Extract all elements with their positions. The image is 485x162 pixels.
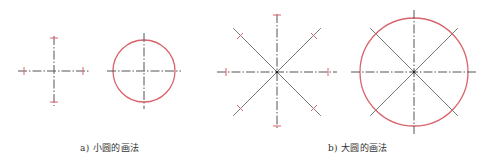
large-circle-step2-circle	[351, 10, 477, 134]
small-circle-step1-crosshair	[18, 36, 90, 106]
small-circle-step2-circle	[107, 33, 181, 109]
caption-small-circle-method: a) 小圆的画法	[80, 141, 139, 154]
radius-tick-mark	[311, 105, 317, 111]
radius-tick-mark	[237, 33, 243, 39]
center-point	[276, 71, 278, 73]
caption-large-circle-method: b) 大圆的画法	[328, 141, 388, 154]
radius-tick-mark	[237, 105, 243, 111]
large-circle-step1-star	[217, 14, 337, 130]
circle-drawing-diagram	[0, 0, 485, 162]
center-point	[413, 71, 415, 73]
radius-tick-mark	[311, 33, 317, 39]
